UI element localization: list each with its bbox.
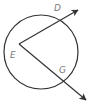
label-g: G <box>59 65 66 75</box>
circle-angle-diagram: D E G <box>0 0 90 108</box>
label-d: D <box>54 3 61 13</box>
ray-eg <box>19 44 86 100</box>
label-e: E <box>10 50 16 60</box>
ray-ed <box>19 10 78 44</box>
